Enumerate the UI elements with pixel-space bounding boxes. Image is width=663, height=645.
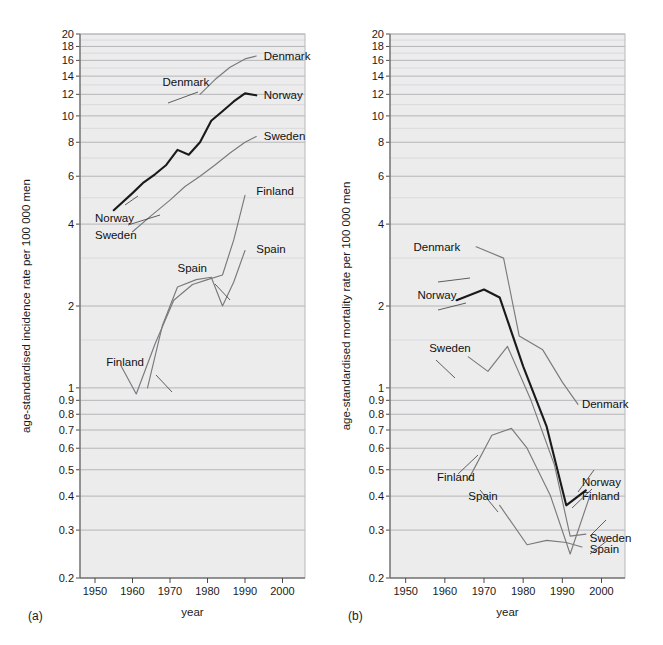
series-annotation-denmark: Denmark <box>163 76 210 88</box>
x-tick-label: 1960 <box>120 585 144 597</box>
y-tick-label: 0.5 <box>59 464 74 476</box>
x-tick-label: 1990 <box>550 585 574 597</box>
y-tick-label: 10 <box>372 110 384 122</box>
y-tick-label: 12 <box>62 88 74 100</box>
series-annotation-spain: Spain <box>256 243 285 255</box>
series-annotation-finland: Finland <box>256 185 294 197</box>
y-tick-label: 6 <box>378 170 384 182</box>
x-tick-label: 1990 <box>233 585 257 597</box>
y-tick-label: 0.9 <box>59 394 74 406</box>
y-tick-label: 0.2 <box>369 572 384 584</box>
series-annotation-spain: Spain <box>468 490 497 502</box>
y-tick-label: 16 <box>62 54 74 66</box>
y-tick-label: 1 <box>68 382 74 394</box>
y-tick-label: 1 <box>378 382 384 394</box>
x-axis-title: year <box>181 606 204 618</box>
y-tick-label: 16 <box>372 54 384 66</box>
y-tick-label: 18 <box>62 40 74 52</box>
x-tick-label: 2000 <box>270 585 294 597</box>
y-tick-label: 8 <box>378 136 384 148</box>
series-annotation-sweden: Sweden <box>95 229 137 241</box>
y-tick-label: 4 <box>68 218 74 230</box>
y-tick-label: 12 <box>372 88 384 100</box>
y-tick-label: 2 <box>378 300 384 312</box>
y-tick-label: 0.7 <box>369 424 384 436</box>
y-tick-label: 10 <box>62 110 74 122</box>
series-annotation-norway: Norway <box>95 212 134 224</box>
series-annotation-denmark: Denmark <box>582 398 629 410</box>
y-tick-label: 0.2 <box>59 572 74 584</box>
y-axis-title: age-standardised mortality rate per 100 … <box>340 182 352 431</box>
x-tick-label: 1980 <box>195 585 219 597</box>
y-tick-label: 14 <box>62 70 74 82</box>
x-tick-label: 1950 <box>83 585 107 597</box>
series-annotation-finland: Finland <box>582 490 620 502</box>
series-annotation-sweden: Sweden <box>429 342 471 354</box>
y-tick-label: 14 <box>372 70 384 82</box>
y-tick-label: 8 <box>68 136 74 148</box>
series-annotation-norway: Norway <box>264 89 303 101</box>
y-tick-label: 0.6 <box>369 442 384 454</box>
y-tick-label: 0.8 <box>59 408 74 420</box>
two-panel-log-line-chart: 201816141210864210.90.80.70.60.50.40.30.… <box>0 0 663 645</box>
y-tick-label: 20 <box>372 28 384 40</box>
y-axis-title: age-standardised incidence rate per 100 … <box>20 179 32 433</box>
x-tick-label: 1950 <box>393 585 417 597</box>
y-tick-label: 0.3 <box>59 524 74 536</box>
y-tick-label: 0.6 <box>59 442 74 454</box>
figure-container: 201816141210864210.90.80.70.60.50.40.30.… <box>0 0 663 645</box>
series-annotation-denmark: Denmark <box>414 241 461 253</box>
y-tick-label: 20 <box>62 28 74 40</box>
x-tick-label: 1980 <box>511 585 535 597</box>
x-tick-label: 1960 <box>433 585 457 597</box>
series-annotation-sweden: Sweden <box>264 130 306 142</box>
series-annotation-finland: Finland <box>106 356 144 368</box>
panel-label: (a) <box>28 609 43 623</box>
x-tick-label: 1970 <box>158 585 182 597</box>
series-annotation-finland: Finland <box>437 471 475 483</box>
series-annotation-spain: Spain <box>590 543 619 555</box>
x-axis-title: year <box>496 606 519 618</box>
y-tick-label: 18 <box>372 40 384 52</box>
y-tick-label: 0.3 <box>369 524 384 536</box>
y-tick-label: 0.9 <box>369 394 384 406</box>
series-annotation-norway: Norway <box>417 289 456 301</box>
y-tick-label: 0.7 <box>59 424 74 436</box>
series-annotation-spain: Spain <box>178 262 207 274</box>
series-annotation-denmark: Denmark <box>264 50 311 62</box>
y-tick-label: 2 <box>68 300 74 312</box>
y-tick-label: 0.5 <box>369 464 384 476</box>
y-tick-label: 0.4 <box>59 490 74 502</box>
panel-label: (b) <box>348 609 363 623</box>
y-tick-label: 4 <box>378 218 384 230</box>
x-tick-label: 2000 <box>589 585 613 597</box>
y-tick-label: 6 <box>68 170 74 182</box>
y-tick-label: 0.8 <box>369 408 384 420</box>
y-tick-label: 0.4 <box>369 490 384 502</box>
x-tick-label: 1970 <box>472 585 496 597</box>
